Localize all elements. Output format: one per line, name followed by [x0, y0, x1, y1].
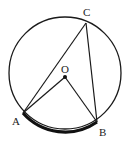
label-c: C: [83, 6, 90, 18]
label-b: B: [99, 126, 106, 138]
label-a: A: [12, 115, 20, 127]
circle-diagram: O A B C: [0, 0, 129, 143]
center-point-o: [63, 75, 67, 79]
segment-ac: [23, 23, 86, 113]
label-o: O: [61, 63, 69, 75]
segment-bc: [86, 23, 97, 122]
